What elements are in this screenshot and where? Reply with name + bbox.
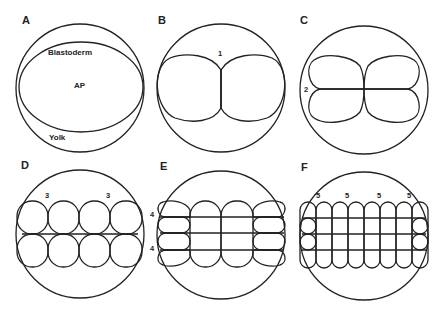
blastomere: [332, 202, 348, 268]
panel-label-d: D: [21, 159, 29, 171]
blastoderm-label: Blastoderm: [48, 48, 92, 57]
panel-label-e: E: [160, 160, 167, 172]
panel-label-f: F: [301, 161, 308, 173]
blastomere-grid: [300, 202, 428, 268]
panel-c: C 2: [300, 14, 428, 154]
blastomere: [309, 56, 364, 89]
cleavage-mark-3: 3: [45, 191, 49, 200]
cleavage-diagram: A Blastoderm AP Yolk B 1 C 2 D: [0, 0, 440, 313]
blastomere: [221, 55, 285, 121]
blastomere: [380, 202, 396, 268]
panel-label-c: C: [300, 14, 308, 26]
cleavage-mark-2: 2: [304, 85, 308, 94]
blastomere: [48, 201, 79, 234]
blastomere: [158, 250, 190, 266]
cleavage-mark-5: 5: [407, 191, 411, 200]
blastomere: [412, 234, 428, 250]
panel-f: F 5 5 5 5: [300, 161, 428, 300]
blastomere: [316, 202, 332, 268]
blastomere: [158, 233, 190, 250]
panel-label-b: B: [158, 14, 166, 26]
blastomere: [253, 233, 285, 250]
blastomere: [364, 56, 419, 89]
cleavage-mark-1: 1: [218, 49, 222, 58]
blastomere: [17, 201, 48, 234]
panel-label-a: A: [22, 14, 30, 26]
blastomere-grid: [158, 201, 285, 267]
blastomere: [396, 202, 412, 268]
blastomere: [17, 234, 48, 267]
panel-a: A Blastoderm AP Yolk: [16, 14, 144, 152]
blastomere: [158, 217, 190, 233]
cleavage-mark-4: 4: [150, 210, 155, 219]
blastomere: [79, 201, 110, 234]
cleavage-mark-5: 5: [345, 191, 349, 200]
blastomere: [364, 202, 380, 268]
blastomere: [157, 55, 221, 121]
blastomere: [190, 201, 221, 267]
panel-e: E 4 4: [150, 160, 285, 299]
blastomere-grid: [17, 201, 142, 267]
blastomere: [348, 202, 364, 268]
blastomere: [300, 218, 316, 234]
blastomere: [253, 201, 285, 217]
blastomere: [412, 202, 428, 268]
blastomere: [79, 234, 110, 267]
animal-pole-label: AP: [74, 81, 86, 90]
blastomere: [364, 89, 419, 122]
panel-d: D 3 3: [16, 159, 144, 298]
blastomere: [48, 234, 79, 267]
blastomere: [300, 234, 316, 250]
blastomere: [253, 217, 285, 233]
panel-b: B 1: [157, 14, 285, 152]
yolk-label: Yolk: [49, 133, 66, 142]
blastomere: [309, 89, 364, 122]
blastomere: [300, 202, 316, 268]
blastomere: [412, 218, 428, 234]
blastomere: [221, 201, 253, 267]
cleavage-mark-3: 3: [106, 191, 110, 200]
cleavage-mark-5: 5: [377, 191, 381, 200]
cleavage-mark-5: 5: [316, 191, 320, 200]
cleavage-mark-4: 4: [150, 244, 155, 253]
